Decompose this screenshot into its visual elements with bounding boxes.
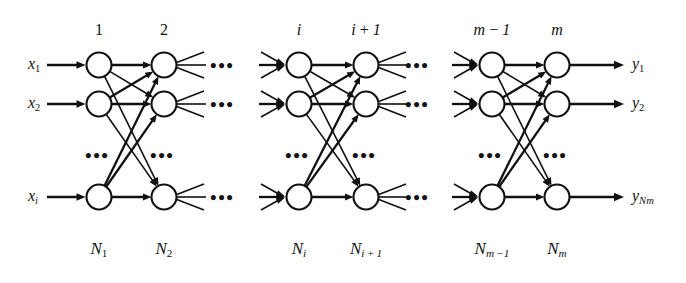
incoming-1-0-up-arrowhead xyxy=(469,58,478,64)
output-label-0: y1 xyxy=(632,56,644,75)
neuron-layer-m-row-n[interactable] xyxy=(545,185,570,210)
input-arrow-2-arrowhead xyxy=(77,193,86,201)
outgoing-0-2-dn xyxy=(176,199,205,210)
output-label-1: y2 xyxy=(632,95,644,114)
h-ellipsis-b-row2: ••• xyxy=(405,95,429,114)
edge-2-1-2 xyxy=(499,114,547,183)
incoming-1-2-up-arrowhead xyxy=(469,190,478,196)
outgoing-0-1-up xyxy=(176,91,205,102)
neuron-layer-i-row-n[interactable] xyxy=(287,185,312,210)
neuron-layer-1-row-n[interactable] xyxy=(87,185,112,210)
v-ellipsis-layer-2: ••• xyxy=(150,146,174,165)
outgoing-1-2-dn xyxy=(378,199,407,210)
neuron-layer-m1-row-1[interactable] xyxy=(480,53,505,78)
layer-bottom-label-layer-2: N2 xyxy=(104,240,224,259)
output-label-2: yNm xyxy=(632,188,654,207)
outgoing-1-1-up xyxy=(378,91,407,102)
neuron-layer-2-row-n[interactable] xyxy=(152,185,177,210)
outgoing-0-0-up xyxy=(176,52,205,63)
neuron-layer-m1-row-n[interactable] xyxy=(480,185,505,210)
neuron-layer-m-row-2[interactable] xyxy=(545,92,570,117)
neuron-layer-i1-row-n[interactable] xyxy=(354,185,379,210)
incoming-1-2-dn-arrowhead xyxy=(469,197,478,203)
edge-2-0-1 xyxy=(503,71,543,95)
input-arrow-1-arrowhead xyxy=(77,100,86,108)
edge-1-0-1 xyxy=(310,71,352,95)
nodes-group xyxy=(87,53,570,210)
input-label-0: x1 xyxy=(28,56,40,75)
edge-1-1-2 xyxy=(306,114,356,183)
layer-top-label-m: m xyxy=(497,22,617,38)
incoming-0-2-up-arrowhead xyxy=(276,190,285,196)
neuron-layer-i-row-1[interactable] xyxy=(287,53,312,78)
neuron-layer-m-row-1[interactable] xyxy=(545,53,570,78)
input-label-1: x2 xyxy=(28,95,40,114)
edge-0-1-0 xyxy=(110,74,150,98)
h-ellipsis-b-row1: ••• xyxy=(405,56,429,75)
neuron-layer-1-row-1[interactable] xyxy=(87,53,112,78)
edges-group xyxy=(47,52,624,210)
neuron-layer-i1-row-1[interactable] xyxy=(354,53,379,78)
incoming-0-0-dn-arrowhead xyxy=(276,65,285,71)
incoming-0-0-up-arrowhead xyxy=(276,58,285,64)
h-ellipsis-b-rown: ••• xyxy=(405,188,429,207)
neuron-layer-2-row-1[interactable] xyxy=(152,53,177,78)
v-ellipsis-layer-m1: ••• xyxy=(478,146,502,165)
incoming-0-1-dn-arrowhead xyxy=(276,104,285,110)
input-label-2: xi xyxy=(28,188,38,207)
outgoing-1-0-up xyxy=(378,52,407,63)
incoming-0-2-dn-arrowhead xyxy=(276,197,285,203)
edge-0-1-2 xyxy=(106,114,154,183)
edge-2-1-0 xyxy=(503,74,543,98)
edge-2-0-0-arrowhead xyxy=(536,61,545,68)
v-ellipsis-layer-i: ••• xyxy=(285,146,309,165)
outgoing-0-0-dn xyxy=(176,67,205,78)
v-ellipsis-layer-1: ••• xyxy=(85,146,109,165)
outgoing-1-0-dn xyxy=(378,67,407,78)
neuron-layer-2-row-2[interactable] xyxy=(152,92,177,117)
neuron-layer-m1-row-2[interactable] xyxy=(480,92,505,117)
h-ellipsis-a-rown: ••• xyxy=(210,188,234,207)
h-ellipsis-a-row2: ••• xyxy=(210,95,234,114)
edge-1-1-0 xyxy=(310,74,352,98)
v-ellipsis-layer-m: ••• xyxy=(543,146,567,165)
v-ellipsis-layer-i1: ••• xyxy=(352,146,376,165)
edge-0-0-0-arrowhead xyxy=(143,61,152,68)
incoming-0-1-up-arrowhead xyxy=(276,97,285,103)
layer-bottom-label-layer-m: Nm xyxy=(497,240,617,259)
neural-network-diagram: 1 2 i i + 1 m − 1 m N1N2NiNi + 1Nm −1Nmx… xyxy=(0,0,686,283)
edge-1-0-0-arrowhead xyxy=(345,61,354,68)
h-ellipsis-a-row1: ••• xyxy=(210,56,234,75)
layer-top-label-2: 2 xyxy=(104,22,224,38)
incoming-1-0-dn-arrowhead xyxy=(469,65,478,71)
incoming-1-1-dn-arrowhead xyxy=(469,104,478,110)
edge-1-2-2-arrowhead xyxy=(345,193,354,200)
neuron-layer-i-row-2[interactable] xyxy=(287,92,312,117)
edge-0-2-2-arrowhead xyxy=(143,193,152,200)
layer-bottom-label-layer-i1: Ni + 1 xyxy=(306,240,426,259)
edge-0-0-1 xyxy=(110,71,150,95)
output-arrow-0-arrowhead xyxy=(614,61,624,69)
neuron-layer-i1-row-2[interactable] xyxy=(354,92,379,117)
output-arrow-2-arrowhead xyxy=(614,193,624,201)
outgoing-1-1-dn xyxy=(378,106,407,117)
outgoing-1-2-up xyxy=(378,184,407,195)
outgoing-0-2-up xyxy=(176,184,205,195)
layer-top-label-i1: i + 1 xyxy=(306,22,426,38)
outgoing-0-1-dn xyxy=(176,106,205,117)
output-arrow-1-arrowhead xyxy=(614,100,624,108)
input-arrow-0-arrowhead xyxy=(77,61,86,69)
neuron-layer-1-row-2[interactable] xyxy=(87,92,112,117)
edge-2-2-2-arrowhead xyxy=(536,193,545,200)
incoming-1-1-up-arrowhead xyxy=(469,97,478,103)
